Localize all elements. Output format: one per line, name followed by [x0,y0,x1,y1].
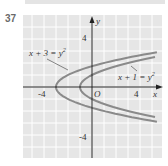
y-axis-label: y [95,16,100,26]
x-tick-neg4: -4 [38,89,46,99]
origin-label: O [94,89,101,99]
annotation-outer: x + 3 = y2 [28,47,66,58]
annotation-inner: x + 1 = y2 [117,71,155,82]
x-axis-label: x [152,89,157,99]
y-tick-4: 4 [82,33,87,43]
parabola-chart: y x 4 -4 -4 4 O x + 3 = y2 x + 1 = y2 [0,0,168,166]
x-tick-4: 4 [134,89,139,99]
y-tick-neg4: -4 [79,132,87,142]
